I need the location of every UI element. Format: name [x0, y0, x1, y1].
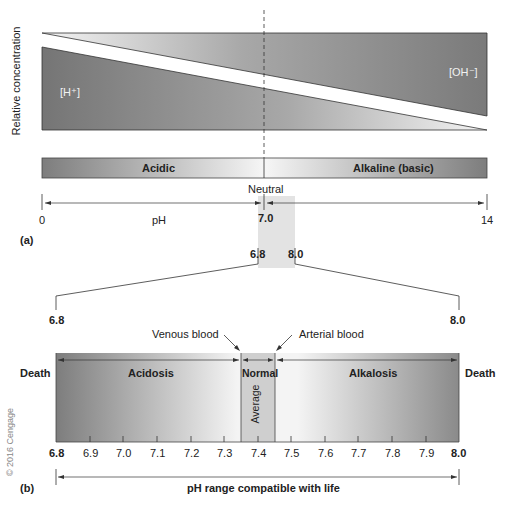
- tick-label: 7.6: [318, 447, 333, 459]
- tick-label: 8.0: [451, 447, 466, 459]
- panel-a-label: (a): [20, 234, 33, 246]
- copyright-notice: © 2016 Cengage: [5, 408, 15, 476]
- zoom-expansion-left: [56, 248, 258, 310]
- ph-neutral-value: 7.0: [258, 212, 273, 224]
- range-right-value: 8.0: [450, 314, 465, 326]
- life-range-label: pH range compatible with life: [187, 482, 340, 494]
- death-right-label: Death: [465, 367, 496, 379]
- tick-label: 7.3: [217, 447, 232, 459]
- zoom-expansion-right: [295, 248, 459, 310]
- acidic-label: Acidic: [142, 162, 175, 174]
- arterial-blood-label: Arterial blood: [299, 328, 364, 340]
- death-left-label: Death: [20, 367, 51, 379]
- tick-label: 6.8: [49, 447, 64, 459]
- zoom-low-value: 6.8: [250, 248, 265, 260]
- average-label: Average: [249, 385, 261, 424]
- tick-label: 7.2: [184, 447, 199, 459]
- alkaline-label: Alkaline (basic): [353, 162, 434, 174]
- venous-blood-label: Venous blood: [152, 328, 219, 340]
- acidosis-label: Acidosis: [128, 367, 174, 379]
- alkalosis-label: Alkalosis: [349, 367, 397, 379]
- tick-label: 6.9: [83, 447, 98, 459]
- tick-label: 7.9: [419, 447, 434, 459]
- normal-label: Normal: [242, 367, 278, 379]
- ph-min-label: 0: [39, 214, 45, 226]
- h-ion-label: [H⁺]: [60, 86, 80, 99]
- tick-label: 7.8: [385, 447, 400, 459]
- tick-label: 7.0: [116, 447, 131, 459]
- tick-label: 7.4: [251, 447, 266, 459]
- panel-b-label: (b): [20, 482, 34, 494]
- ph-max-label: 14: [481, 214, 493, 226]
- tick-label: 7.5: [284, 447, 299, 459]
- ph-axis-label: pH: [152, 214, 166, 226]
- tick-label: 7.7: [351, 447, 366, 459]
- y-axis-label: Relative concentration: [10, 27, 22, 136]
- zoom-high-value: 8.0: [288, 248, 303, 260]
- tick-label: 7.1: [150, 447, 165, 459]
- neutral-label: Neutral: [248, 183, 283, 195]
- range-left-value: 6.8: [49, 314, 64, 326]
- oh-ion-label: [OH⁻]: [449, 66, 478, 79]
